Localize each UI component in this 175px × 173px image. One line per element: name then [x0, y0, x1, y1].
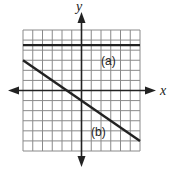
x-axis-label: x — [159, 83, 167, 98]
y-axis-label: y — [74, 0, 83, 14]
line-a-label: (a) — [101, 54, 116, 68]
y-axis — [78, 12, 86, 167]
y-axis-down-arrow-icon — [78, 156, 86, 167]
x-axis-left-arrow-icon — [8, 87, 19, 95]
x-axis-right-arrow-icon — [145, 87, 156, 95]
line-b-label: (b) — [91, 125, 106, 139]
coordinate-plane: x y (a) (b) — [0, 0, 175, 173]
